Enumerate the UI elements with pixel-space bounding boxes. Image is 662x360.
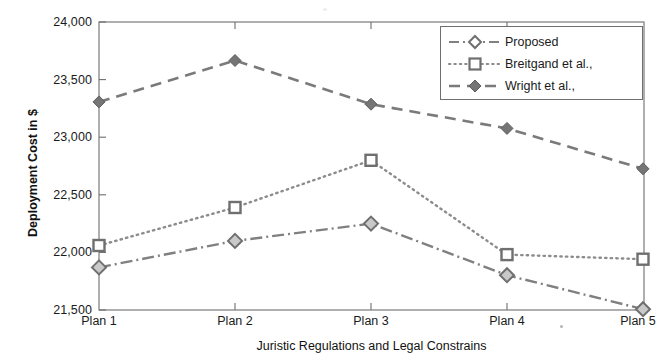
scan-artifact (323, 8, 327, 11)
series-breitgand-markers (94, 155, 649, 265)
legend: Proposed Breitgand et al., Wright et al.… (440, 26, 643, 100)
series-proposed-markers (92, 217, 650, 317)
series-proposed-line (99, 224, 643, 310)
series-proposed (92, 217, 650, 317)
legend-label-wright: Wright et al., (505, 79, 575, 93)
legend-label-breitgand: Breitgand et al., (505, 57, 593, 71)
legend-item-breitgand: Breitgand et al., (441, 53, 642, 75)
legend-sample-wright (447, 76, 503, 96)
legend-sample-breitgand (447, 54, 503, 74)
scan-artifact (560, 325, 563, 328)
series-breitgand (94, 155, 649, 265)
series-breitgand-line (99, 160, 643, 259)
deployment-cost-line-chart: 24,000 23,500 23,000 22,500 22,000 21,50… (0, 0, 662, 360)
legend-label-proposed: Proposed (505, 35, 559, 49)
legend-sample-proposed (447, 32, 503, 52)
legend-item-wright: Wright et al., (441, 75, 642, 97)
legend-item-proposed: Proposed (441, 31, 642, 53)
